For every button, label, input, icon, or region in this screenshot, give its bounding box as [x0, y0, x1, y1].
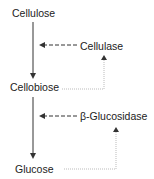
cellulose-hydrolysis-diagram: Cellulose Cellulase Cellobiose β-Glucosi…	[0, 0, 154, 179]
cellulase-feedback-arrowhead	[101, 55, 107, 60]
node-glucose: Glucose	[15, 163, 54, 175]
node-cellulose: Cellulose	[12, 7, 55, 19]
node-cellobiose: Cellobiose	[10, 81, 59, 93]
cellobiose-inhibition-line	[62, 60, 104, 89]
beta-glucosidase-feedback-arrowhead	[113, 127, 119, 132]
enzyme-cellulase: Cellulase	[80, 40, 123, 52]
glucose-inhibition-line	[64, 132, 116, 169]
enzyme-beta-glucosidase: β-Glucosidase	[80, 110, 147, 122]
